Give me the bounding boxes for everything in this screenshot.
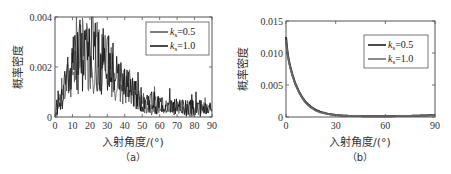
x-tick-label: 60 bbox=[155, 120, 165, 131]
x-tick-label: 90 bbox=[207, 120, 217, 131]
chart-panel-a: 010203040506070809000.0020.004 概率密度 入射角度… bbox=[0, 0, 225, 174]
chart-a-xlabel: 入射角度/(°) bbox=[102, 135, 164, 149]
chart-b-xlabel: 入射角度/(°) bbox=[329, 135, 391, 149]
y-tick-label: 0 bbox=[47, 112, 52, 123]
y-tick-label: 0.015 bbox=[261, 16, 284, 27]
chart-a-svg: 010203040506070809000.0020.004 概率密度 入射角度… bbox=[0, 0, 225, 174]
chart-b-svg: 030609000.0050.0100.015 概率密度 入射角度/(°) （b… bbox=[225, 0, 451, 174]
chart-b-legend: ks=0.5 ks=1.0 bbox=[364, 35, 428, 68]
x-tick-label: 30 bbox=[102, 120, 112, 131]
chart-b-caption: （b） bbox=[347, 152, 373, 163]
x-tick-label: 0 bbox=[284, 120, 289, 131]
y-tick-label: 0.010 bbox=[261, 48, 284, 59]
x-tick-label: 80 bbox=[190, 120, 200, 131]
y-tick-label: 0 bbox=[278, 112, 283, 123]
chart-panel-b: 030609000.0050.0100.015 概率密度 入射角度/(°) （b… bbox=[225, 0, 451, 174]
x-tick-label: 20 bbox=[85, 120, 95, 131]
x-tick-label: 60 bbox=[380, 120, 390, 131]
x-tick-label: 50 bbox=[137, 120, 147, 131]
chart-a-caption: （a） bbox=[120, 152, 146, 163]
chart-a-legend: ks=0.5 ks=1.0 bbox=[146, 22, 209, 55]
chart-b-ticks: 030609000.0050.0100.015 bbox=[261, 16, 441, 132]
x-tick-label: 90 bbox=[430, 120, 440, 131]
x-tick-label: 40 bbox=[120, 120, 130, 131]
x-tick-label: 70 bbox=[172, 120, 182, 131]
x-tick-label: 30 bbox=[331, 120, 341, 131]
x-tick-label: 10 bbox=[67, 120, 77, 131]
x-tick-label: 0 bbox=[53, 120, 58, 131]
y-tick-label: 0.005 bbox=[261, 80, 284, 91]
chart-b-ylabel: 概率密度 bbox=[236, 47, 250, 91]
y-tick-label: 0.004 bbox=[30, 12, 53, 23]
y-tick-label: 0.002 bbox=[30, 62, 53, 73]
chart-a-ylabel: 概率密度 bbox=[11, 45, 25, 89]
